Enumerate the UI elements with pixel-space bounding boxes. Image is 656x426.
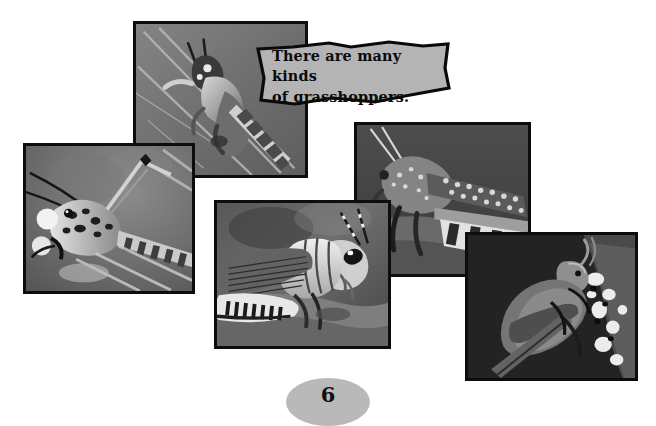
text-callout: There are many kinds of grasshoppers. — [255, 38, 451, 108]
photo-grasshopper-profile — [214, 200, 391, 349]
page-number-badge: 6 — [286, 378, 370, 426]
page-number: 6 — [286, 382, 370, 407]
callout-text: There are many kinds of grasshoppers. — [272, 46, 444, 107]
photo-dark-grasshopper-on-twig-image — [468, 235, 635, 378]
photo-lubber-grasshopper-closeup — [23, 143, 195, 294]
photo-dark-grasshopper-on-twig — [465, 232, 638, 381]
photo-lubber-grasshopper-closeup-image — [26, 146, 192, 291]
photo-grasshopper-profile-image — [217, 203, 388, 346]
